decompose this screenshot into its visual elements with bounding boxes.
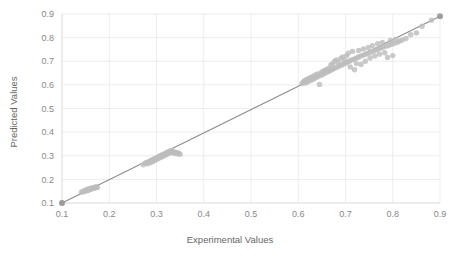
- data-point: [419, 24, 424, 29]
- x-tick-label: 0.9: [434, 209, 447, 219]
- x-tick-label: 0.5: [245, 209, 258, 219]
- data-point: [377, 51, 382, 56]
- data-point: [361, 46, 366, 51]
- x-tick-label: 0.4: [197, 209, 210, 219]
- data-point: [363, 59, 368, 64]
- scatter-chart: 0.10.20.30.40.50.60.70.80.9 0.10.20.30.4…: [0, 0, 460, 257]
- data-point: [177, 152, 182, 157]
- x-tick-label: 0.6: [292, 209, 305, 219]
- x-tick-label: 0.7: [339, 209, 352, 219]
- data-point: [95, 185, 100, 190]
- data-point: [408, 32, 413, 37]
- data-point: [317, 82, 322, 87]
- x-axis-tick-labels: 0.10.20.30.40.50.60.70.80.9: [56, 209, 447, 219]
- y-tick-label: 0.4: [41, 127, 54, 137]
- x-axis-title: Experimental Values: [187, 234, 274, 245]
- data-point: [375, 41, 380, 46]
- y-tick-label: 0.5: [41, 104, 54, 114]
- x-tick-label: 0.3: [150, 209, 163, 219]
- y-tick-label: 0.1: [41, 198, 54, 208]
- y-tick-label: 0.9: [41, 9, 54, 19]
- y-tick-label: 0.7: [41, 56, 54, 66]
- y-tick-label: 0.8: [41, 33, 54, 43]
- data-point: [358, 62, 363, 67]
- data-point: [367, 55, 372, 60]
- data-point: [352, 67, 357, 72]
- data-point: [429, 17, 434, 22]
- x-tick-label: 0.2: [103, 209, 116, 219]
- x-tick-label: 0.1: [56, 209, 69, 219]
- data-point: [382, 50, 387, 55]
- data-point-endpoint: [437, 13, 443, 19]
- y-tick-label: 0.6: [41, 80, 54, 90]
- data-point: [356, 48, 361, 53]
- data-point: [354, 61, 359, 66]
- data-point: [370, 43, 375, 48]
- data-point-endpoint: [59, 200, 65, 206]
- data-point: [390, 53, 395, 58]
- x-tick-label: 0.8: [386, 209, 399, 219]
- data-point: [385, 55, 390, 60]
- data-point: [372, 53, 377, 58]
- y-axis-title: Predicted Values: [8, 76, 19, 147]
- data-point: [350, 49, 355, 54]
- y-tick-label: 0.2: [41, 175, 54, 185]
- chart-canvas: 0.10.20.30.40.50.60.70.80.9 0.10.20.30.4…: [0, 0, 460, 257]
- y-tick-label: 0.3: [41, 151, 54, 161]
- y-axis-tick-labels: 0.10.20.30.40.50.60.70.80.9: [41, 9, 54, 208]
- data-point: [403, 36, 408, 41]
- data-point: [414, 30, 419, 35]
